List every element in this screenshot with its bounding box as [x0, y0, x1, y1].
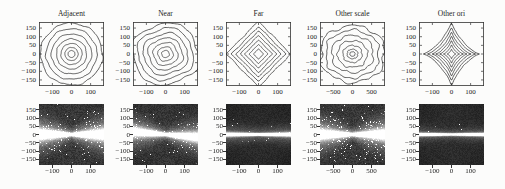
y-tick-label: 0 [296, 131, 317, 139]
axis-tick-mark [223, 134, 226, 135]
contour-ring [432, 33, 471, 76]
y-tick-label: 100 [296, 114, 317, 122]
x-tick-label: 100 [263, 88, 293, 96]
y-tick-label: −100 [296, 147, 317, 155]
y-tick-label: 0 [202, 50, 223, 58]
axis-tick-mark [223, 159, 226, 160]
y-tick-label: 100 [395, 114, 416, 122]
y-tick-label: −150 [202, 155, 223, 163]
y-tick-label: −150 [109, 76, 130, 84]
y-tick-label: 0 [15, 131, 36, 139]
axes-box [320, 22, 384, 85]
axis-tick-mark [130, 159, 133, 160]
y-tick-label: −100 [395, 147, 416, 155]
y-tick-label: 0 [202, 131, 223, 139]
subplot-title: Other ori [409, 9, 494, 18]
axis-tick-mark [130, 126, 133, 127]
axis-tick-mark [416, 134, 419, 135]
y-tick-label: 50 [15, 122, 36, 130]
y-tick-label: −100 [395, 67, 416, 75]
y-tick-label: −50 [109, 59, 130, 67]
contour-ring [231, 27, 286, 81]
axis-tick-mark [36, 134, 39, 135]
y-tick-label: 0 [395, 50, 416, 58]
axis-tick-mark [416, 109, 419, 110]
y-tick-label: −100 [109, 67, 130, 75]
axis-tick-mark [470, 165, 471, 168]
y-tick-label: −50 [395, 59, 416, 67]
axis-tick-mark [130, 142, 133, 143]
axis-tick-mark [317, 118, 320, 119]
y-tick-label: 0 [296, 50, 317, 58]
subplot: Near 150100500−50−100−150−1000100 [109, 0, 209, 96]
y-tick-label: 50 [202, 41, 223, 49]
axis-tick-mark [36, 109, 39, 110]
y-tick-label: 50 [202, 122, 223, 130]
contour-ring [343, 45, 363, 63]
y-tick-label: 150 [296, 106, 317, 114]
subplot: 150100500−50−100−150−1000100 [395, 96, 495, 189]
y-tick-label: 100 [109, 33, 130, 41]
y-tick-label: 150 [15, 24, 36, 32]
axis-tick-mark [317, 126, 320, 127]
y-tick-label: −50 [296, 59, 317, 67]
correlation-image-other-ori [419, 104, 484, 165]
y-tick-label: 50 [296, 41, 317, 49]
axis-tick-mark [317, 159, 320, 160]
x-tick-label: 100 [76, 88, 106, 96]
y-tick-label: 150 [202, 106, 223, 114]
y-tick-label: −100 [15, 147, 36, 155]
y-tick-label: 100 [15, 33, 36, 41]
plot-area [226, 22, 291, 86]
y-tick-label: 50 [109, 41, 130, 49]
plot-area [39, 104, 104, 165]
axis-tick-mark [317, 109, 320, 110]
axis-tick-mark [90, 165, 91, 168]
contour-ring [447, 49, 456, 58]
y-tick-label: −150 [395, 76, 416, 84]
subplot: Adjacent 150100500−50−100−150−1000100 [15, 0, 115, 96]
contour-ring [40, 22, 103, 85]
axis-tick-mark [184, 165, 185, 168]
y-tick-label: −100 [296, 67, 317, 75]
contour-ring [162, 50, 170, 57]
axis-tick-mark [223, 126, 226, 127]
plot-area [39, 22, 104, 86]
axis-tick-mark [36, 126, 39, 127]
y-tick-label: −100 [202, 147, 223, 155]
contour-plot-other-scale [320, 22, 385, 86]
contour-ring [444, 45, 460, 63]
contour-ring [45, 29, 97, 79]
axis-tick-mark [146, 165, 147, 168]
subplot: Other ori 150100500−50−100−150−1000100 [395, 0, 495, 96]
x-tick-label: 100 [170, 88, 200, 96]
axis-tick-mark [239, 165, 240, 168]
subplot: Far 150100500−50−100−150−1000100 [202, 0, 302, 96]
contour-plot-other-ori [419, 22, 484, 86]
axis-tick-mark [130, 134, 133, 135]
axis-tick-mark [333, 165, 334, 168]
axis-tick-mark [416, 151, 419, 152]
axes-box [419, 22, 483, 85]
y-tick-label: −150 [15, 76, 36, 84]
y-tick-label: −150 [395, 155, 416, 163]
y-tick-label: −150 [202, 76, 223, 84]
y-tick-label: 100 [202, 114, 223, 122]
contour-ring [158, 47, 174, 62]
axis-tick-mark [130, 109, 133, 110]
axis-tick-mark [317, 151, 320, 152]
y-tick-label: −150 [109, 155, 130, 163]
y-tick-label: 150 [395, 106, 416, 114]
y-tick-label: −150 [15, 155, 36, 163]
y-tick-label: 100 [296, 33, 317, 41]
y-tick-label: 150 [109, 24, 130, 32]
figure: Adjacent 150100500−50−100−150−1000100 Ne… [0, 0, 505, 189]
contour-plot-near [133, 22, 198, 86]
y-tick-label: 100 [202, 33, 223, 41]
x-tick-label: 100 [456, 167, 486, 175]
subplot: Other scale 150100500−50−100−150−5000500 [296, 0, 396, 96]
axis-tick-mark [416, 126, 419, 127]
y-tick-label: 100 [395, 33, 416, 41]
y-tick-label: 150 [15, 106, 36, 114]
axis-tick-mark [416, 118, 419, 119]
